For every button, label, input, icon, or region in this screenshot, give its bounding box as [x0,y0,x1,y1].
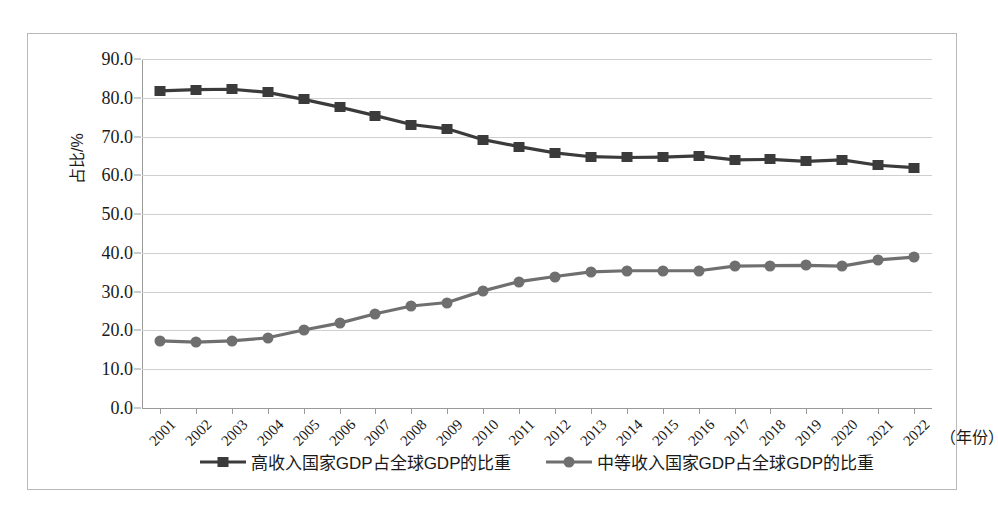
x-axis-tick-mark [483,408,484,414]
y-axis-tick-mark [134,214,141,215]
x-axis-tick-mark [519,408,520,414]
x-axis-tick-mark [411,408,412,414]
data-point-marker [154,335,165,346]
x-axis-tick-mark [699,408,700,414]
x-axis-tick-label: 2007 [362,417,394,449]
data-point-marker [478,285,489,296]
data-point-marker [442,297,453,308]
legend-marker-icon [546,456,592,468]
data-point-marker [478,135,489,145]
x-axis-tick-mark [268,408,269,414]
y-axis-tick-label: 20.0 [102,321,134,339]
x-axis-tick-mark [375,408,376,414]
data-point-marker [657,152,668,162]
x-axis-unit-label: （年份） [940,424,998,448]
data-point-marker [262,87,273,97]
y-axis-tick-mark [134,252,141,253]
x-axis-tick-mark [770,408,771,414]
x-axis-tick-mark [304,408,305,414]
y-axis-tick-mark [134,59,141,60]
x-axis-tick-mark [735,408,736,414]
y-axis-tick-mark [134,136,141,137]
y-axis-tick-label: 60.0 [102,166,134,184]
x-axis-tick-mark [196,408,197,414]
data-point-marker [549,148,560,158]
data-point-marker [154,86,165,96]
y-axis-tick-label: 80.0 [102,89,134,107]
x-axis-tick-label: 2018 [757,417,789,449]
y-axis-tick-mark [134,330,141,331]
data-point-marker [190,85,201,95]
legend-label: 中等收入国家GDP占全球GDP的比重 [597,449,875,474]
data-point-marker [585,266,596,277]
x-axis-tick-label: 2019 [793,417,825,449]
data-point-marker [693,151,704,161]
data-point-marker [765,260,776,271]
data-point-marker [262,332,273,343]
data-point-marker [442,124,453,134]
data-point-marker [729,155,740,165]
x-axis-tick-label: 2002 [183,417,215,449]
data-point-marker [765,154,776,164]
x-axis-tick-label: 2016 [685,417,717,449]
x-axis-tick-label: 2003 [219,417,251,449]
data-point-marker [406,120,417,130]
x-axis-tick-mark [878,408,879,414]
data-point-marker [514,142,525,152]
data-point-marker [298,325,309,336]
data-point-marker [909,252,920,263]
data-point-marker [585,152,596,162]
data-point-marker [621,152,632,162]
y-axis-tick-label: 0.0 [111,399,134,417]
x-axis-tick-mark [340,408,341,414]
x-axis-tick-mark [555,408,556,414]
y-axis-title: 占比/% [64,133,88,184]
legend-marker-icon [200,456,246,468]
x-axis-tick-mark [232,408,233,414]
y-axis-tick-mark [134,408,141,409]
x-axis-tick-label: 2008 [398,417,430,449]
y-axis-tick-label: 90.0 [102,50,134,68]
chart-frame: 占比/% 0.010.020.030.040.050.060.070.080.0… [27,33,957,490]
x-axis-tick-label: 2011 [506,417,537,448]
y-axis-tick-mark [134,97,141,98]
data-point-marker [873,160,884,170]
x-axis-tick-label: 2005 [290,417,322,449]
x-axis-tick-mark [663,408,664,414]
x-axis-tick-label: 2006 [326,417,358,449]
x-axis-tick-label: 2012 [542,417,574,449]
x-axis-tick-label: 2014 [614,417,646,449]
data-point-marker [909,163,920,173]
legend-label: 高收入国家GDP占全球GDP的比重 [251,449,512,474]
y-axis-tick-label: 10.0 [102,360,134,378]
data-point-marker [226,335,237,346]
x-axis-tick-mark [914,408,915,414]
series-line [160,257,914,342]
legend-entry[interactable]: 高收入国家GDP占全球GDP的比重 [200,449,512,474]
data-point-marker [370,308,381,319]
x-axis-tick-label: 2022 [901,417,933,449]
data-point-marker [334,318,345,329]
data-point-marker [621,265,632,276]
data-point-marker [406,301,417,312]
x-axis-tick-mark [806,408,807,414]
x-axis-tick-mark [447,408,448,414]
y-axis-tick-label: 70.0 [102,128,134,146]
chart-legend: 高收入国家GDP占全球GDP的比重中等收入国家GDP占全球GDP的比重 [142,449,932,474]
plot-area: 0.010.020.030.040.050.060.070.080.090.0 … [142,59,932,408]
legend-entry[interactable]: 中等收入国家GDP占全球GDP的比重 [546,449,875,474]
x-axis-tick-label: 2020 [829,417,861,449]
data-point-marker [514,276,525,287]
y-axis-tick-mark [134,369,141,370]
x-axis-tick-label: 2001 [147,417,179,449]
data-point-marker [190,337,201,348]
data-point-marker [334,102,345,112]
data-point-marker [873,254,884,265]
data-point-marker [693,265,704,276]
data-point-marker [837,155,848,165]
x-axis-tick-label: 2009 [434,417,466,449]
gridline [142,408,932,409]
x-axis-tick-label: 2004 [254,417,286,449]
y-axis-tick-mark [134,291,141,292]
